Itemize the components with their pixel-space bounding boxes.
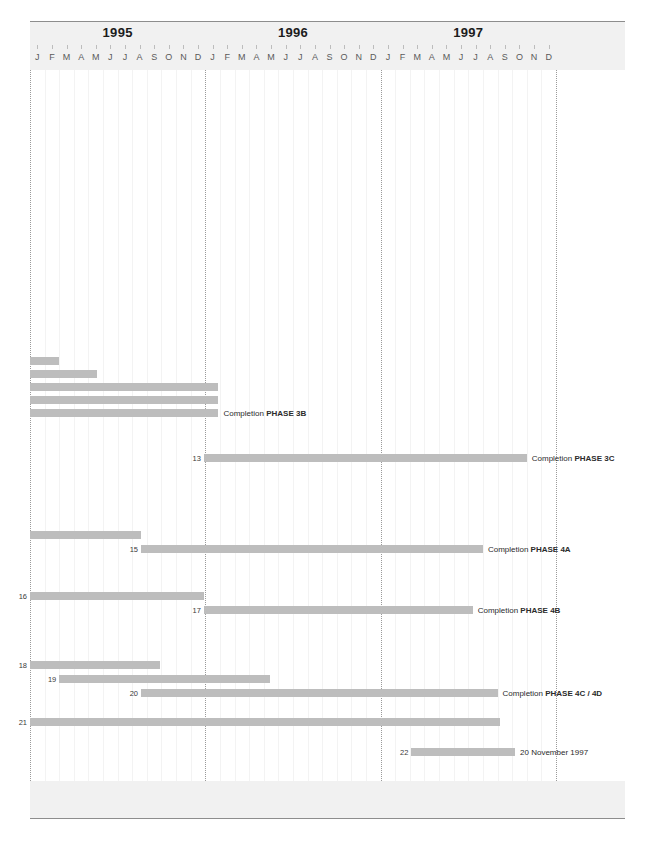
gantt-bar[interactable]	[141, 545, 483, 553]
month-tick	[271, 45, 272, 49]
month-gridline	[512, 70, 513, 781]
bar-number: 18	[0, 662, 27, 670]
month-label-J-24: J	[381, 50, 396, 64]
month-label-N-10: N	[176, 50, 191, 64]
bar-label-text: Completion	[488, 545, 531, 554]
bar-label-text: Completion	[532, 454, 575, 463]
month-gridline	[293, 70, 294, 781]
month-tick	[96, 45, 97, 49]
month-label-N-22: N	[351, 50, 366, 64]
month-label-A-15: A	[249, 50, 264, 64]
month-tick	[37, 45, 38, 49]
month-gridline	[424, 70, 425, 781]
month-label-A-7: A	[132, 50, 147, 64]
month-tick	[330, 45, 331, 49]
bar-completion-label: Completion PHASE 4C / 4D	[503, 690, 603, 698]
gantt-bar[interactable]	[204, 606, 473, 614]
bar-completion-label: Completion PHASE 3C	[532, 455, 615, 463]
month-tick	[169, 45, 170, 49]
month-gridline	[337, 70, 338, 781]
bar-number: 20	[109, 690, 138, 698]
month-tick	[490, 45, 491, 49]
gantt-bar[interactable]	[30, 357, 59, 365]
footer-rule	[30, 818, 625, 819]
month-gridline	[541, 70, 542, 781]
gantt-bar[interactable]	[30, 718, 500, 726]
gantt-bar[interactable]	[141, 689, 497, 697]
month-tick	[315, 45, 316, 49]
month-label-A-19: A	[308, 50, 323, 64]
month-gridline	[498, 70, 499, 781]
month-tick	[344, 45, 345, 49]
bar-number: 13	[172, 455, 201, 463]
year-gridline	[556, 70, 557, 781]
month-label-F-1: F	[45, 50, 60, 64]
month-tick	[534, 45, 535, 49]
month-tick	[476, 45, 477, 49]
month-label-S-8: S	[147, 50, 162, 64]
month-label-F-13: F	[220, 50, 235, 64]
month-tick	[110, 45, 111, 49]
bar-number: 15	[109, 546, 138, 554]
month-label-O-33: O	[512, 50, 527, 64]
bar-label-phase: PHASE 3C	[574, 454, 614, 463]
month-tick	[52, 45, 53, 49]
gantt-bar[interactable]	[30, 370, 97, 378]
month-label-J-6: J	[118, 50, 133, 64]
month-tick	[461, 45, 462, 49]
bar-number: 17	[172, 607, 201, 615]
month-gridline	[45, 70, 46, 781]
month-label-D-11: D	[191, 50, 206, 64]
month-label-M-16: M	[264, 50, 279, 64]
year-label-1997: 1997	[381, 25, 556, 41]
month-gridline	[395, 70, 396, 781]
month-tick	[373, 45, 374, 49]
gantt-bar[interactable]	[204, 454, 527, 462]
month-gridline	[527, 70, 528, 781]
month-tick	[183, 45, 184, 49]
gantt-bar[interactable]	[59, 675, 269, 683]
month-gridline	[278, 70, 279, 781]
month-label-J-12: J	[205, 50, 220, 64]
year-label-1995: 1995	[30, 25, 205, 41]
gantt-bar[interactable]	[30, 396, 218, 404]
month-tick	[388, 45, 389, 49]
month-gridline	[308, 70, 309, 781]
gantt-bar[interactable]	[30, 383, 218, 391]
bar-completion-label: 20 November 1997	[520, 749, 588, 757]
month-gridline	[351, 70, 352, 781]
month-label-D-23: D	[366, 50, 381, 64]
month-tick	[227, 45, 228, 49]
month-label-J-18: J	[293, 50, 308, 64]
month-label-O-21: O	[337, 50, 352, 64]
bar-completion-label: Completion PHASE 4A	[488, 546, 571, 554]
bar-label-text: 20 November 1997	[520, 748, 588, 757]
month-tick	[549, 45, 550, 49]
gantt-bar[interactable]	[411, 748, 515, 756]
gantt-plot-area: Completion PHASE 3B13Completion PHASE 3C…	[30, 70, 625, 781]
month-label-M-2: M	[59, 50, 74, 64]
month-label-O-9: O	[161, 50, 176, 64]
bar-label-phase: PHASE 3B	[266, 409, 306, 418]
bar-number: 22	[379, 749, 408, 757]
month-label-D-35: D	[541, 50, 556, 64]
month-tick	[125, 45, 126, 49]
month-label-S-20: S	[322, 50, 337, 64]
gantt-bar[interactable]	[30, 661, 160, 669]
month-label-N-34: N	[527, 50, 542, 64]
gantt-bar[interactable]	[30, 592, 204, 600]
gantt-bar[interactable]	[30, 409, 218, 417]
month-label-M-26: M	[410, 50, 425, 64]
month-label-J-0: J	[30, 50, 45, 64]
gantt-bar[interactable]	[30, 531, 141, 539]
month-gridline	[483, 70, 484, 781]
month-gridline	[366, 70, 367, 781]
month-tick	[67, 45, 68, 49]
bar-label-phase: PHASE 4C / 4D	[545, 689, 602, 698]
month-gridline	[454, 70, 455, 781]
footer-band	[30, 781, 625, 818]
month-tick	[432, 45, 433, 49]
gantt-chart-page: 199519961997 JFMAMJJASONDJFMAMJJASONDJFM…	[0, 0, 660, 848]
bar-label-phase: PHASE 4A	[531, 545, 571, 554]
year-gridline	[30, 70, 31, 781]
